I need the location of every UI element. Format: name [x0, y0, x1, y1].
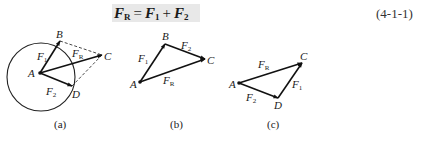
- figure-c-triangle: A C D FR F2 F1 (c): [228, 50, 308, 131]
- vector-f2-arrow: [40, 73, 72, 86]
- label-c: C: [207, 54, 215, 66]
- label-fr: FR: [71, 47, 84, 61]
- label-a: A: [129, 78, 137, 90]
- label-b: B: [162, 30, 169, 42]
- label-c: C: [104, 50, 112, 62]
- label-f2: F2: [245, 91, 257, 105]
- figure-a-parallelogram: A B C D F1 FR F2 (a): [7, 28, 112, 131]
- label-a: A: [228, 78, 236, 90]
- label-f1: F1: [137, 52, 149, 66]
- label-c: C: [300, 50, 308, 62]
- point-a-dot: [138, 80, 142, 84]
- vector-f2-arrow: [239, 83, 278, 98]
- caption-b: (b): [170, 118, 183, 131]
- label-f2: F2: [45, 85, 57, 99]
- point-a-dot: [38, 71, 42, 75]
- caption-a: (a): [54, 118, 67, 131]
- label-f1: F1: [36, 50, 48, 64]
- label-d: D: [71, 88, 80, 100]
- point-a-dot: [237, 81, 241, 85]
- figure-b-triangle: A B C F1 F2 FR (b): [129, 30, 215, 131]
- label-d: D: [273, 99, 282, 111]
- caption-c: (c): [267, 118, 280, 131]
- label-f2: F2: [180, 39, 192, 53]
- vector-fr-arrow: [140, 59, 205, 82]
- force-diagrams: A B C D F1 FR F2 (a) A B C F1 F2 FR (b) …: [0, 0, 425, 141]
- label-fr: FR: [257, 58, 270, 72]
- label-b: B: [56, 28, 63, 40]
- label-f1: F1: [291, 78, 303, 92]
- label-fr: FR: [162, 74, 175, 88]
- label-a: A: [27, 67, 35, 79]
